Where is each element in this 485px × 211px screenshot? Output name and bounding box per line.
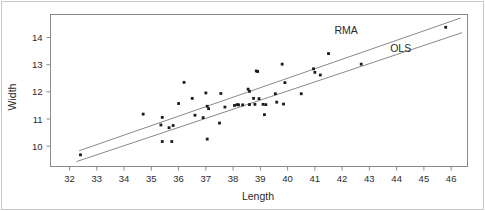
data-point	[204, 92, 207, 95]
x-tick-label: 45	[419, 173, 430, 184]
y-tick-label: 12	[32, 86, 43, 97]
data-point	[312, 67, 315, 70]
x-tick-label: 38	[228, 173, 239, 184]
data-point	[79, 153, 82, 156]
data-point	[202, 116, 205, 119]
data-point	[172, 124, 175, 127]
y-axis-ticks: 1011121314	[32, 32, 51, 152]
data-point	[191, 97, 194, 100]
data-point	[224, 106, 227, 109]
data-point	[248, 103, 251, 106]
fit-line-rma	[79, 18, 461, 151]
data-point	[282, 103, 285, 106]
x-tick-label: 41	[310, 173, 321, 184]
data-point	[248, 90, 251, 93]
scatter-plot-figure: 323334353637383940414243444546 101112131…	[0, 0, 485, 211]
x-tick-label: 37	[201, 173, 212, 184]
data-point	[319, 74, 322, 77]
data-point	[281, 63, 284, 66]
data-point	[161, 140, 164, 143]
x-tick-label: 39	[255, 173, 266, 184]
data-point	[444, 26, 447, 29]
x-tick-label: 33	[92, 173, 103, 184]
data-point	[275, 101, 278, 104]
y-tick-label: 10	[32, 141, 43, 152]
data-point	[274, 92, 277, 95]
data-point	[168, 126, 171, 129]
x-tick-label: 46	[446, 173, 457, 184]
regression-lines	[76, 18, 462, 162]
x-tick-label: 44	[391, 173, 402, 184]
data-point	[264, 103, 267, 106]
data-point	[177, 102, 180, 105]
data-point	[183, 81, 186, 84]
series-label-ols: OLS	[390, 42, 411, 54]
x-tick-label: 32	[64, 173, 75, 184]
data-point	[207, 107, 210, 110]
data-point	[256, 70, 259, 73]
data-point	[300, 92, 303, 95]
x-axis-ticks: 323334353637383940414243444546	[64, 167, 456, 184]
x-tick-label: 34	[119, 173, 130, 184]
data-point	[313, 71, 316, 74]
data-point	[194, 114, 197, 117]
y-tick-label: 13	[32, 59, 43, 70]
x-tick-label: 43	[364, 173, 375, 184]
y-tick-label: 11	[33, 114, 43, 125]
data-point	[263, 113, 266, 116]
data-point	[161, 116, 164, 119]
data-point	[159, 124, 162, 127]
data-point	[252, 97, 255, 100]
data-point	[206, 138, 209, 141]
data-point	[258, 97, 261, 100]
data-point	[254, 103, 257, 106]
series-label-rma: RMA	[335, 24, 358, 36]
data-point	[283, 81, 286, 84]
data-point	[206, 105, 209, 108]
chart-canvas: 323334353637383940414243444546 101112131…	[0, 0, 485, 211]
y-axis-title: Width	[6, 83, 18, 110]
data-point	[233, 104, 236, 107]
data-point	[142, 113, 145, 116]
x-axis-title: Length	[242, 190, 274, 202]
x-tick-label: 42	[337, 173, 348, 184]
data-point	[218, 122, 221, 125]
y-tick-label: 14	[32, 32, 43, 43]
x-tick-label: 36	[173, 173, 184, 184]
x-tick-label: 40	[282, 173, 293, 184]
data-point	[327, 52, 330, 55]
data-point	[170, 140, 173, 143]
data-point	[360, 63, 363, 66]
data-point	[219, 92, 222, 95]
data-point	[241, 103, 244, 106]
x-tick-label: 35	[146, 173, 157, 184]
data-point	[262, 103, 265, 106]
data-point	[237, 103, 240, 106]
